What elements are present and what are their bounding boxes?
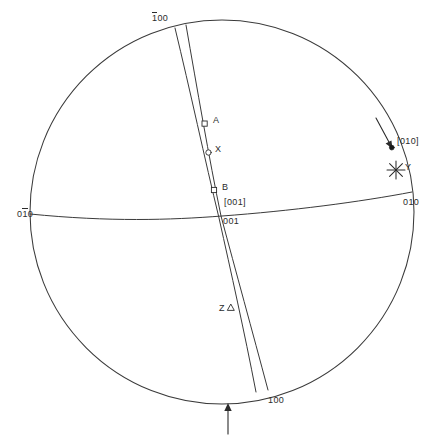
label-pole-01bar0-text: 010: [17, 209, 33, 219]
bottom-index-arrow: [224, 403, 231, 434]
marker-x-open-circle: [206, 150, 211, 155]
label-direction-001-text: [001]: [224, 197, 246, 207]
label-direction-010-text: [010]: [397, 136, 419, 146]
marker-z-open-triangle: [228, 304, 235, 310]
label-pole-010-text: 010: [403, 197, 419, 207]
great-circle-right: [186, 25, 268, 390]
great-circle-left: [175, 28, 256, 392]
stereogram-canvas: [0, 0, 438, 436]
label-marker-y-text: Y: [405, 162, 411, 172]
label-marker-z-text: Z: [219, 303, 225, 313]
marker-y-asterisk-star: [387, 161, 405, 179]
label-direction-010: [010]: [397, 136, 419, 146]
label-marker-b: B: [222, 182, 228, 192]
label-marker-x-text: X: [215, 144, 221, 154]
label-pole-001-text: 001: [223, 216, 239, 226]
label-direction-001: [001]: [224, 197, 246, 207]
label-pole-001: 001: [223, 216, 239, 226]
label-marker-b-text: B: [222, 182, 228, 192]
label-marker-a: A: [213, 115, 219, 125]
stereogram-figure: 100 100 010 010 [001] 001 [010] A X B Z …: [0, 0, 438, 436]
marker-b-open-square: [211, 187, 216, 192]
label-pole-01bar0: 010: [17, 209, 33, 219]
pointer-arrow-to-010: [376, 118, 393, 149]
label-marker-y: Y: [405, 162, 411, 172]
marker-a-open-square: [202, 121, 207, 126]
primitive-circle: [30, 20, 414, 404]
marker-010-filled-dot: [389, 145, 394, 150]
label-marker-x: X: [215, 144, 221, 154]
label-marker-a-text: A: [213, 115, 219, 125]
label-pole-100-text: 100: [268, 395, 284, 405]
label-pole-010: 010: [403, 197, 419, 207]
label-pole-1bar00: 100: [152, 13, 168, 23]
label-pole-1bar00-text: 100: [152, 13, 168, 23]
label-pole-100: 100: [268, 395, 284, 405]
label-marker-z: Z: [219, 303, 225, 313]
